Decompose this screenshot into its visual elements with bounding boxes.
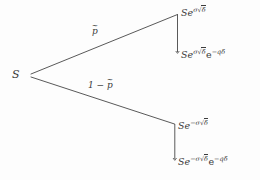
neg-sigma-symbol: −σ [190, 155, 200, 163]
root-node-S: S [12, 69, 20, 80]
neg-sigma-symbol: −σ [190, 119, 200, 127]
up-adjusted-terminal-value: Seσ√δe−qδ [181, 50, 225, 60]
tree-connector-graphics [0, 0, 260, 180]
up-branch-probability: ~p [92, 27, 98, 36]
up-terminal-value: Seσ√δ [181, 8, 206, 18]
down-terminal-exponent: −σ√δ [190, 119, 208, 127]
down-terminal-base: Se [178, 120, 190, 131]
up-terminal-exponent: σ√δ [193, 6, 206, 14]
down-terminal-value: Se−σ√δ [178, 121, 208, 131]
up-adj-factor-exponent: −qδ [212, 48, 225, 56]
root-node-label: S [12, 68, 20, 81]
down-adj-factor-exponent: −qδ [214, 155, 227, 163]
p-tilde-group: ~p [107, 81, 113, 90]
up-terminal-base: Se [181, 7, 193, 18]
up-branch-line [31, 15, 178, 75]
delta-symbol: δ [201, 5, 206, 14]
up-adj-base: Se [181, 49, 193, 60]
down-adj-exponent: −σ√δ [190, 155, 208, 163]
up-adj-exponent: σ√δ [193, 48, 206, 56]
tilde-accent-icon: ~ [92, 22, 98, 30]
down-branch-probability: 1 − ~p [88, 81, 113, 90]
one-minus-prefix: 1 − [88, 80, 107, 90]
down-adjusted-terminal-value: Se−σ√δe−qδ [178, 157, 228, 167]
delta-symbol: δ [204, 118, 209, 127]
tilde-accent-icon: ~ [107, 76, 113, 84]
p-tilde-group: ~p [92, 27, 98, 36]
binomial-tree-figure: S Seσ√δ Seσ√δe−qδ Se−σ√δ Se−σ√δe−qδ ~p 1… [0, 0, 260, 180]
down-adj-base: Se [178, 156, 190, 167]
